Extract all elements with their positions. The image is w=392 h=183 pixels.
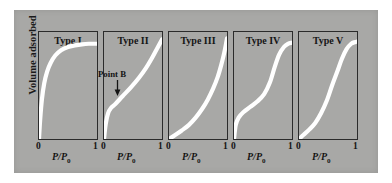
x-tick-min: 0 [296,141,301,151]
point-b-label: Point B [98,69,126,79]
x-axis-label-sub: 0 [132,157,136,165]
curve-type-iii [169,32,227,139]
x-axis-label-text: P/P [117,151,132,162]
isotherm-curve-path [299,42,357,139]
x-tick-min: 0 [231,141,236,151]
curve-type-v [299,32,357,139]
x-tick-max: 1 [288,141,293,151]
x-axis-label-sub: 0 [67,157,71,165]
x-tick-max: 1 [223,141,228,151]
figure-plate: Volume adsorbed Type I 0 1 P/P0 Type II … [14,10,378,173]
down-arrow-icon [113,80,122,96]
panel-type-i: Type I [38,31,98,140]
adsorption-isotherm-figure: Volume adsorbed Type I 0 1 P/P0 Type II … [0,0,392,183]
x-tick-min: 0 [36,141,41,151]
panel-type-iv: Type IV [233,31,293,140]
isotherm-curve-path [39,44,97,139]
x-tick-max: 1 [353,141,358,151]
x-axis-label: P/P0 [312,151,331,165]
x-axis-label: P/P0 [182,151,201,165]
x-axis-label-sub: 0 [262,157,266,165]
x-tick-min: 0 [101,141,106,151]
panel-type-ii: Type II [103,31,163,140]
x-axis-label: P/P0 [117,151,136,165]
x-axis-label-text: P/P [312,151,327,162]
panel-type-iii: Type III [168,31,228,140]
x-tick-min: 0 [166,141,171,151]
curve-type-iv [234,32,292,139]
isotherm-curve-path [169,38,227,139]
isotherm-curve-path [234,43,292,139]
x-axis-label-text: P/P [52,151,67,162]
x-axis-label-sub: 0 [197,157,201,165]
curve-type-i [39,32,97,139]
x-axis-label: P/P0 [247,151,266,165]
panel-type-v: Type V [298,31,358,140]
x-axis-label-text: P/P [182,151,197,162]
x-tick-max: 1 [158,141,163,151]
x-tick-max: 1 [93,141,98,151]
x-axis-label-sub: 0 [327,157,331,165]
x-axis-label-text: P/P [247,151,262,162]
x-axis-label: P/P0 [52,151,71,165]
